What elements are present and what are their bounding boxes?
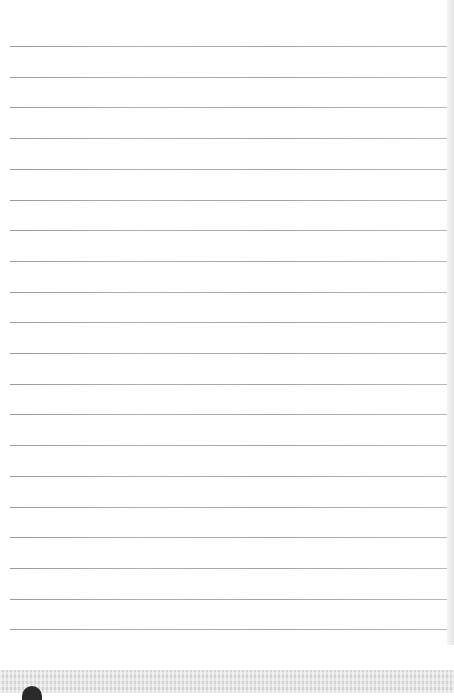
ruled-line (10, 138, 447, 139)
decorative-corner-graphic (22, 686, 42, 700)
ruled-line (10, 384, 447, 385)
ruled-line (10, 46, 447, 47)
ruled-line (10, 599, 447, 600)
ruled-line (10, 445, 447, 446)
ruled-line (10, 476, 447, 477)
ruled-line (10, 507, 447, 508)
ruled-line (10, 353, 447, 354)
ruled-line (10, 77, 447, 78)
ruled-line (10, 629, 447, 630)
ruled-line (10, 292, 447, 293)
ruled-line (10, 261, 447, 262)
ruled-line (10, 169, 447, 170)
ruled-line (10, 414, 447, 415)
ruled-line (10, 568, 447, 569)
ruled-line (10, 200, 447, 201)
ruled-line (10, 537, 447, 538)
ruled-line (10, 107, 447, 108)
page-edge-shadow (447, 0, 454, 645)
patterned-bottom-band (0, 670, 454, 693)
ruled-line (10, 322, 447, 323)
ruled-line (10, 230, 447, 231)
